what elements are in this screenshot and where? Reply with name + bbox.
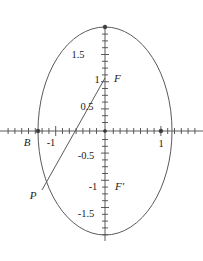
plot-canvas: 1.5 1 0.5 -0.5 -1 -1.5 -1 1 F F' B P <box>0 0 203 261</box>
point-label-f-prime: F' <box>114 180 125 192</box>
ellipse-figure: 1.5 1 0.5 -0.5 -1 -1.5 -1 1 F F' B P <box>0 0 203 261</box>
point-label-p: P <box>29 189 37 201</box>
y-tick-label-0p5: 0.5 <box>80 101 93 112</box>
point-marker-x-unit <box>159 129 163 133</box>
axes-group <box>0 27 203 241</box>
chord-f-to-p <box>42 78 105 190</box>
y-tick-label-1p5: 1.5 <box>71 49 84 60</box>
y-tick-label-neg1: -1 <box>89 181 98 192</box>
point-marker-origin <box>103 129 106 132</box>
x-tick-label-1: 1 <box>158 138 163 149</box>
y-tick-label-neg1p5: -1.5 <box>78 208 95 219</box>
x-tick-label-neg1: -1 <box>47 137 56 148</box>
point-label-f: F <box>113 72 121 84</box>
y-tick-label-neg0p5: -0.5 <box>78 150 95 161</box>
point-label-b: B <box>24 136 31 148</box>
point-marker-top-vertex <box>103 25 107 29</box>
y-tick-label-1: 1 <box>94 74 99 85</box>
point-marker-b <box>36 129 40 133</box>
